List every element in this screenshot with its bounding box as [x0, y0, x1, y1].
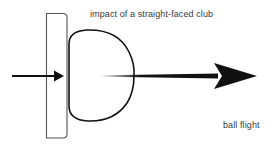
ball-flight-label: ball flight — [223, 120, 260, 130]
ball-flight-arrow-icon — [100, 63, 257, 89]
diagram-canvas: impact of a straight-faced club ball fli… — [0, 0, 275, 147]
diagram-title: impact of a straight-faced club — [90, 9, 213, 19]
swing-direction-arrow-icon — [12, 71, 64, 82]
